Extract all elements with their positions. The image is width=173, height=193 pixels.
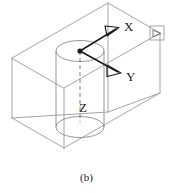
box-wireframe bbox=[12, 3, 160, 148]
axis-y-arrowhead-icon bbox=[107, 65, 121, 77]
cylinder-bottom-ellipse bbox=[56, 117, 104, 138]
isometric-box-diagram bbox=[0, 0, 173, 193]
box-edge-inner-back-right bbox=[108, 93, 160, 112]
axis-origin-point bbox=[77, 48, 82, 53]
axis-z-label: Z bbox=[79, 101, 87, 114]
figure-caption: (b) bbox=[0, 172, 173, 183]
axis-x-group bbox=[80, 26, 119, 51]
axis-y-label: Y bbox=[126, 70, 135, 83]
box-edge-inner-back-left bbox=[12, 112, 108, 118]
figure-container: X Y Z (b) bbox=[0, 0, 173, 193]
axis-x-label: X bbox=[124, 20, 133, 33]
box-top-face-edge bbox=[12, 3, 160, 88]
axis-y-group bbox=[80, 51, 121, 77]
axis-x-line bbox=[80, 29, 116, 51]
